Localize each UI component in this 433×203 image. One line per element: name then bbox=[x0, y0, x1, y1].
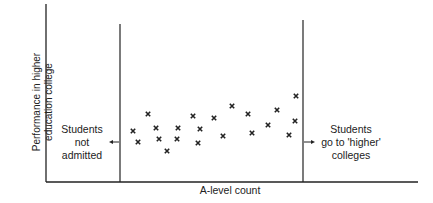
data-point-x-marker bbox=[275, 108, 279, 112]
data-point-x-marker bbox=[175, 137, 179, 141]
right-arrow-icon bbox=[304, 140, 315, 144]
y-axis-label-line-2: education college bbox=[43, 27, 55, 177]
data-point-x-marker bbox=[131, 129, 135, 133]
data-point-x-marker bbox=[230, 104, 234, 108]
data-point-x-marker bbox=[250, 131, 254, 135]
data-point-x-marker bbox=[165, 149, 169, 153]
data-point-x-marker bbox=[294, 94, 298, 98]
data-point-x-marker bbox=[157, 137, 161, 141]
data-points bbox=[131, 94, 298, 153]
annotation-line: Students bbox=[56, 123, 108, 136]
data-point-x-marker bbox=[146, 112, 150, 116]
annotation-line: not bbox=[56, 136, 108, 149]
data-point-x-marker bbox=[287, 133, 291, 137]
left-arrow-icon bbox=[109, 140, 119, 144]
data-point-x-marker bbox=[154, 126, 158, 130]
x-axis-label: A-level count bbox=[160, 184, 300, 197]
annotation-not-admitted: Students not admitted bbox=[56, 123, 108, 162]
data-point-x-marker bbox=[266, 123, 270, 127]
annotation-higher-colleges: Students go to 'higher' colleges bbox=[316, 123, 386, 162]
annotation-line: admitted bbox=[56, 149, 108, 162]
scatter-plot bbox=[0, 0, 433, 203]
data-point-x-marker bbox=[176, 126, 180, 130]
annotation-line: go to 'higher' bbox=[316, 136, 386, 149]
annotation-line: Students bbox=[316, 123, 386, 136]
data-point-x-marker bbox=[246, 112, 250, 116]
data-point-x-marker bbox=[196, 141, 200, 145]
data-point-x-marker bbox=[293, 119, 297, 123]
data-point-x-marker bbox=[136, 140, 140, 144]
data-point-x-marker bbox=[191, 114, 195, 118]
data-point-x-marker bbox=[221, 134, 225, 138]
y-axis-label: Performance in higher education college bbox=[31, 27, 55, 177]
y-axis-label-line-1: Performance in higher bbox=[31, 27, 43, 177]
annotation-line: colleges bbox=[316, 149, 386, 162]
data-point-x-marker bbox=[198, 127, 202, 131]
data-point-x-marker bbox=[212, 116, 216, 120]
